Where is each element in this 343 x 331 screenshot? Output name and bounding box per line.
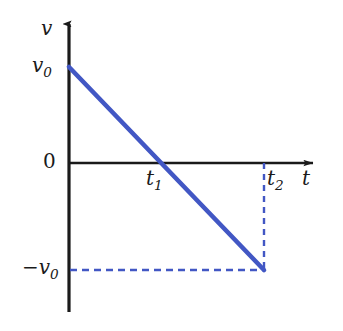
x-axis-label: t [302,168,310,188]
v0-tick-label: v0 [32,55,52,80]
v0-tick-label-sub: 0 [43,64,52,80]
t2-tick-label: t2 [267,168,284,193]
t2-tick-label-sub: 2 [275,177,284,193]
t1-tick-label-sub: 1 [154,177,163,193]
neg-v0-tick-label: −v0 [22,257,59,282]
neg-v0-tick-label-sub: 0 [50,266,59,282]
neg-v0-tick-label-base: −v [22,255,50,279]
v0-tick-label-base: v [32,53,43,77]
t2-tick-label-base: t [267,166,275,190]
t1-tick-label-base: t [146,166,154,190]
y-axis-label: v [41,18,52,38]
velocity-time-diagram: v v0 0 t1 t2 t −v0 [0,0,343,331]
velocity-curve [69,67,264,270]
origin-label: 0 [43,151,56,171]
t1-tick-label: t1 [146,168,163,193]
